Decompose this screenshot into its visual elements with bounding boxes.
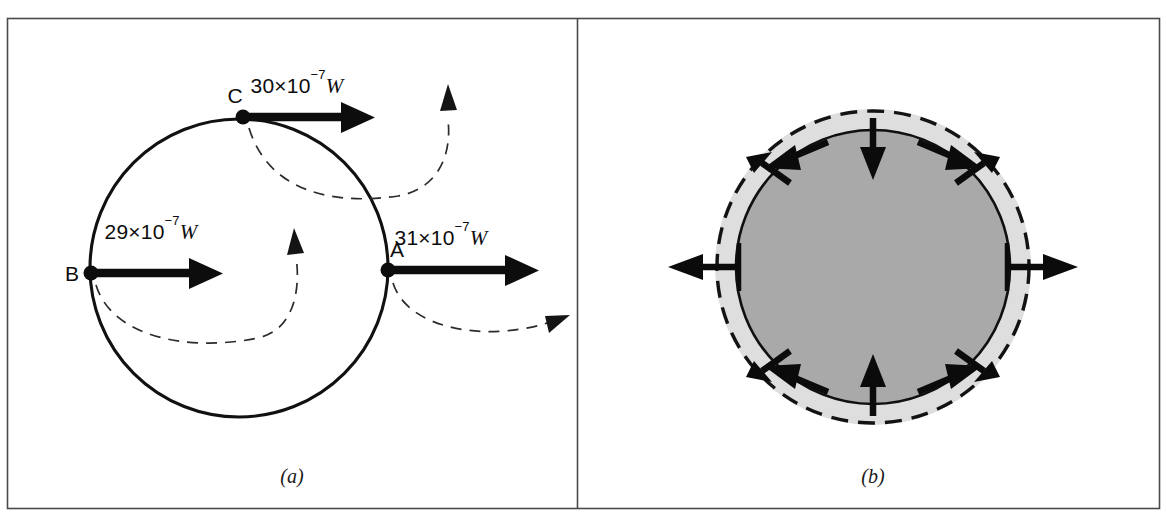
panel-b-caption: (b)	[861, 465, 885, 488]
node-dot-b	[84, 266, 99, 281]
node-label-c: C	[227, 84, 242, 107]
figure-svg: C 30×10−7W B 29×10−7W A 31×10−7W (a)	[0, 0, 1166, 526]
vector-c-arrowhead	[341, 102, 375, 133]
node-label-b: B	[65, 262, 79, 285]
panel-b: (b)	[668, 109, 1078, 488]
vector-b-arrowhead	[189, 258, 223, 289]
dashed-arc-a	[393, 283, 570, 333]
node-dot-a	[381, 263, 396, 278]
dashed-arc-c-arrowhead	[440, 84, 457, 111]
panel-a: C 30×10−7W B 29×10−7W A 31×10−7W (a)	[65, 67, 570, 489]
vector-label-c: 30×10−7W	[251, 67, 346, 99]
panel-a-caption: (a)	[280, 465, 304, 488]
panel-a-circle	[90, 119, 388, 417]
vector-c	[246, 102, 375, 133]
dashed-arc-c	[249, 84, 457, 199]
vector-a	[391, 255, 539, 286]
dashed-arc-a-arrowhead	[545, 315, 570, 333]
vector-label-a: 31×10−7W	[395, 219, 490, 251]
node-dot-c	[236, 110, 251, 125]
vector-b	[94, 258, 223, 289]
dashed-arc-b-arrowhead	[287, 228, 304, 255]
dashed-arc-b	[96, 228, 304, 343]
figure-container: C 30×10−7W B 29×10−7W A 31×10−7W (a)	[0, 0, 1166, 526]
vector-label-b: 29×10−7W	[105, 213, 200, 245]
vector-a-arrowhead	[505, 255, 539, 286]
